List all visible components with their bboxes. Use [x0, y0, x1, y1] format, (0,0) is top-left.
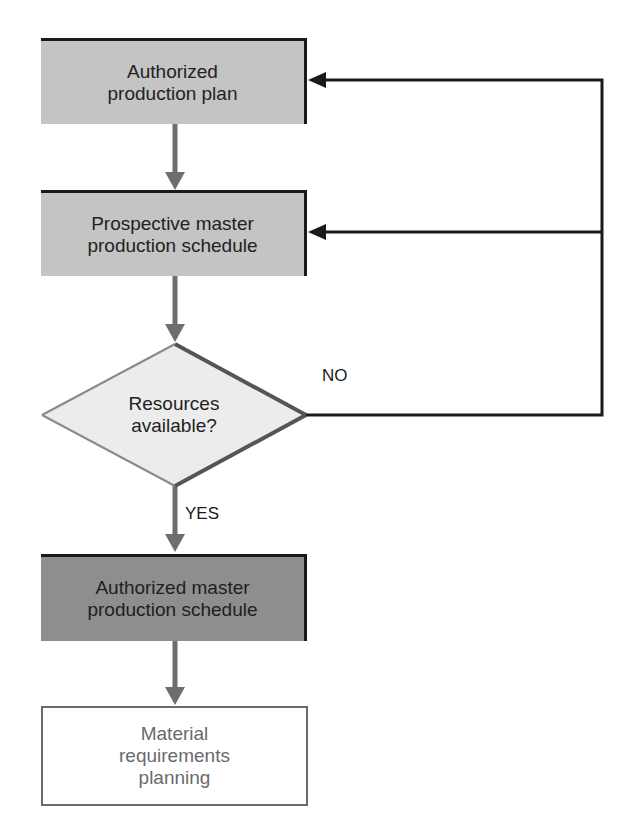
- node-authorized-mps: Authorized master production schedule: [41, 554, 307, 641]
- arrow-prospective-to-decision: [165, 275, 185, 342]
- node-label: Prospective master production schedule: [87, 213, 257, 257]
- node-label: Authorized production plan: [108, 61, 238, 105]
- arrowhead-to-prospective: [308, 224, 326, 240]
- no-edge-label: NO: [322, 366, 348, 386]
- node-label: Material requirements planning: [119, 723, 230, 789]
- arrow-decision-to-authorized: [165, 486, 185, 552]
- arrow-plan-to-prospective: [165, 123, 185, 190]
- node-material-requirements-planning: Material requirements planning: [41, 706, 308, 806]
- decision-label: Resources available?: [42, 344, 306, 486]
- node-authorized-production-plan: Authorized production plan: [41, 38, 307, 124]
- yes-edge-label: YES: [185, 504, 219, 524]
- node-label: Authorized master production schedule: [87, 577, 257, 621]
- arrowhead-to-plan: [308, 72, 326, 88]
- node-prospective-mps: Prospective master production schedule: [41, 190, 307, 276]
- arrow-authorized-to-mrp: [165, 640, 185, 705]
- feedback-loop: [306, 72, 602, 415]
